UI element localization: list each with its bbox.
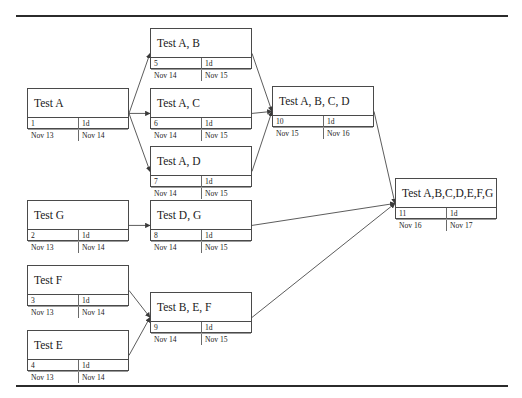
node-finish-date: Nov 15	[201, 334, 251, 345]
edge-test-d-g-to-test-all	[252, 203, 395, 225]
node-title: Test A, D	[151, 147, 251, 176]
node-dates-row: Nov 13Nov 14	[28, 372, 128, 383]
node-duration: 1d	[323, 116, 373, 127]
node-id: 10	[273, 116, 323, 127]
edge-test-a-to-test-a-d	[129, 113, 150, 171]
node-dates-row: Nov 15Nov 16	[273, 128, 373, 139]
node-finish-date: Nov 14	[78, 130, 128, 141]
node-title: Test E	[28, 331, 128, 360]
node-test-a-c[interactable]: Test A, C61dNov 14Nov 15	[150, 88, 252, 129]
node-id-duration-row: 21d	[28, 230, 128, 242]
node-id-duration-row: 81d	[151, 230, 251, 242]
node-duration: 1d	[201, 176, 251, 187]
node-start-date: Nov 13	[28, 242, 78, 253]
node-finish-date: Nov 15	[201, 188, 251, 199]
node-start-date: Nov 14	[151, 188, 201, 199]
edge-test-f-to-test-b-e-f	[129, 290, 150, 317]
node-dates-row: Nov 13Nov 14	[28, 130, 128, 141]
node-start-date: Nov 14	[151, 70, 201, 81]
node-finish-date: Nov 15	[201, 242, 251, 253]
node-id-duration-row: 71d	[151, 176, 251, 188]
node-title: Test A, B, C, D	[273, 87, 373, 116]
node-duration: 1d	[78, 295, 128, 306]
edge-test-a-to-test-a-b	[129, 53, 150, 113]
edge-test-a-b-c-d-to-test-all	[374, 111, 395, 203]
node-finish-date: Nov 15	[201, 70, 251, 81]
node-dates-row: Nov 14Nov 15	[151, 70, 251, 81]
node-dates-row: Nov 13Nov 14	[28, 307, 128, 318]
node-test-a[interactable]: Test A11dNov 13Nov 14	[27, 88, 129, 129]
node-id: 4	[28, 360, 78, 371]
node-title: Test F	[28, 266, 128, 295]
node-start-date: Nov 14	[151, 130, 201, 141]
node-test-a-b-c-d[interactable]: Test A, B, C, D101dNov 15Nov 16	[272, 86, 374, 127]
node-start-date: Nov 13	[28, 372, 78, 383]
node-duration: 1d	[201, 230, 251, 241]
node-id-duration-row: 51d	[151, 58, 251, 70]
node-duration: 1d	[78, 360, 128, 371]
node-id: 9	[151, 322, 201, 333]
node-test-b-e-f[interactable]: Test B, E, F91dNov 14Nov 15	[150, 292, 252, 333]
node-dates-row: Nov 14Nov 15	[151, 334, 251, 345]
node-dates-row: Nov 13Nov 14	[28, 242, 128, 253]
node-title: Test A, C	[151, 89, 251, 118]
node-id-duration-row: 91d	[151, 322, 251, 334]
node-finish-date: Nov 15	[201, 130, 251, 141]
node-id-duration-row: 61d	[151, 118, 251, 130]
node-id: 5	[151, 58, 201, 69]
edge-test-a-b-to-test-a-b-c-d	[252, 53, 272, 111]
edge-test-b-e-f-to-test-all	[252, 203, 395, 317]
node-dates-row: Nov 14Nov 15	[151, 130, 251, 141]
node-id: 6	[151, 118, 201, 129]
node-id: 8	[151, 230, 201, 241]
node-start-date: Nov 16	[396, 220, 446, 231]
node-finish-date: Nov 14	[78, 307, 128, 318]
node-test-a-d[interactable]: Test A, D71dNov 14Nov 15	[150, 146, 252, 187]
node-duration: 1d	[78, 118, 128, 129]
node-finish-date: Nov 14	[78, 242, 128, 253]
node-id-duration-row: 101d	[273, 116, 373, 128]
node-title: Test A, B	[151, 29, 251, 58]
diagram-canvas: Test A11dNov 13Nov 14Test A, B51dNov 14N…	[0, 0, 522, 398]
node-start-date: Nov 15	[273, 128, 323, 139]
node-duration: 1d	[201, 58, 251, 69]
node-id-duration-row: 41d	[28, 360, 128, 372]
node-title: Test A,B,C,D,E,F,G	[396, 179, 496, 208]
node-test-e[interactable]: Test E41dNov 13Nov 14	[27, 330, 129, 371]
node-dates-row: Nov 16Nov 17	[396, 220, 496, 231]
node-finish-date: Nov 16	[323, 128, 373, 139]
node-duration: 1d	[201, 322, 251, 333]
node-id: 1	[28, 118, 78, 129]
node-test-a-b[interactable]: Test A, B51dNov 14Nov 15	[150, 28, 252, 69]
node-title: Test A	[28, 89, 128, 118]
node-start-date: Nov 14	[151, 242, 201, 253]
node-test-d-g[interactable]: Test D, G81dNov 14Nov 15	[150, 200, 252, 241]
node-id-duration-row: 111d	[396, 208, 496, 220]
node-dates-row: Nov 14Nov 15	[151, 188, 251, 199]
node-id-duration-row: 11d	[28, 118, 128, 130]
node-test-all[interactable]: Test A,B,C,D,E,F,G111dNov 16Nov 17	[395, 178, 497, 219]
node-title: Test D, G	[151, 201, 251, 230]
node-start-date: Nov 13	[28, 307, 78, 318]
node-finish-date: Nov 17	[446, 220, 496, 231]
node-test-f[interactable]: Test F31dNov 13Nov 14	[27, 265, 129, 306]
node-start-date: Nov 14	[151, 334, 201, 345]
node-start-date: Nov 13	[28, 130, 78, 141]
edge-test-a-d-to-test-a-b-c-d	[252, 111, 272, 171]
node-title: Test G	[28, 201, 128, 230]
node-duration: 1d	[201, 118, 251, 129]
node-id: 2	[28, 230, 78, 241]
edge-test-e-to-test-b-e-f	[129, 317, 150, 355]
node-finish-date: Nov 14	[78, 372, 128, 383]
node-id-duration-row: 31d	[28, 295, 128, 307]
node-id: 11	[396, 208, 446, 219]
node-id: 3	[28, 295, 78, 306]
node-title: Test B, E, F	[151, 293, 251, 322]
edge-test-a-c-to-test-a-b-c-d	[252, 111, 272, 113]
node-duration: 1d	[446, 208, 496, 219]
node-dates-row: Nov 14Nov 15	[151, 242, 251, 253]
node-duration: 1d	[78, 230, 128, 241]
node-test-g[interactable]: Test G21dNov 13Nov 14	[27, 200, 129, 241]
node-id: 7	[151, 176, 201, 187]
